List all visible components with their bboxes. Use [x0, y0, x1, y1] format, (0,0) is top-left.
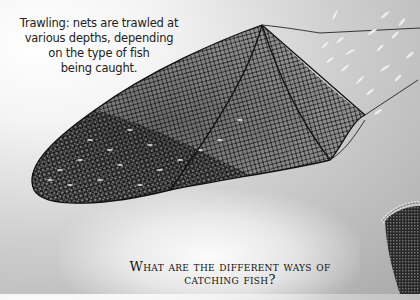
- basket-trap-illustration: [382, 203, 420, 294]
- caption-line-3: on the type of fish: [14, 46, 184, 61]
- trawling-caption: Trawling: nets are trawled at various de…: [14, 16, 184, 76]
- caption-line-4: being caught.: [14, 61, 184, 76]
- caption-line-1: Trawling: nets are trawled at: [14, 16, 184, 31]
- caption-line-2: various depths, depending: [14, 31, 184, 46]
- page-heading: What are the different ways of catching …: [80, 260, 380, 286]
- heading-line-2: catching fish?: [80, 273, 380, 286]
